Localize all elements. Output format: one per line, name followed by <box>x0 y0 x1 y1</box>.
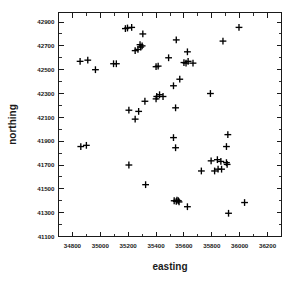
data-point <box>84 57 91 64</box>
y-tick-label: 41700 <box>37 161 55 168</box>
data-point <box>173 37 180 44</box>
data-point <box>77 143 84 150</box>
data-point <box>128 24 135 31</box>
x-axis: 3480035000352003540035600358003600036200 <box>64 13 277 249</box>
data-point <box>170 82 177 89</box>
data-point <box>125 162 132 169</box>
data-point <box>198 168 205 175</box>
plot-frame <box>59 13 282 237</box>
data-series <box>77 24 248 217</box>
data-point <box>142 181 149 188</box>
data-point <box>92 66 99 73</box>
data-point <box>224 131 231 138</box>
data-point <box>207 90 214 97</box>
data-point <box>142 98 149 105</box>
data-point <box>220 38 227 45</box>
x-tick-label: 36000 <box>231 242 249 249</box>
data-point <box>139 31 146 38</box>
y-tick-label: 41500 <box>37 185 55 192</box>
data-point <box>218 166 225 173</box>
data-point <box>208 157 215 164</box>
y-tick-label: 42500 <box>37 66 55 73</box>
y-tick-label: 42700 <box>37 42 55 49</box>
x-tick-label: 35800 <box>203 242 221 249</box>
data-point <box>83 142 90 149</box>
y-tick-label: 41900 <box>37 137 55 144</box>
x-tick-label: 35400 <box>147 242 165 249</box>
y-tick-label: 41100 <box>38 233 55 240</box>
data-point <box>135 108 142 115</box>
y-axis: 4110041300415004170041900421004230042500… <box>37 18 281 239</box>
data-point <box>184 203 191 210</box>
data-point <box>225 210 232 217</box>
y-tick-label: 41300 <box>37 209 55 216</box>
data-point <box>165 54 172 61</box>
data-point <box>236 24 243 31</box>
data-point <box>172 104 179 111</box>
data-point <box>241 199 248 206</box>
frame-rect <box>59 13 282 237</box>
scatter-plot-figure: 3480035000352003540035600358003600036200… <box>0 0 302 283</box>
data-point <box>172 144 179 151</box>
data-point <box>170 134 177 141</box>
data-point <box>184 48 191 55</box>
data-point <box>125 107 132 114</box>
x-tick-label: 36200 <box>259 242 277 249</box>
plot-canvas: 3480035000352003540035600358003600036200… <box>0 0 302 283</box>
x-tick-label: 35200 <box>120 242 138 249</box>
y-tick-label: 42300 <box>37 90 55 97</box>
y-tick-label: 42900 <box>37 18 55 25</box>
x-tick-label: 35600 <box>175 242 193 249</box>
y-tick-label: 42100 <box>37 114 55 121</box>
x-tick-label: 34800 <box>64 242 82 249</box>
data-point <box>77 58 84 65</box>
x-axis-title: easting <box>152 261 187 272</box>
x-tick-label: 35000 <box>92 242 110 249</box>
data-point <box>223 143 230 150</box>
data-point <box>132 116 139 123</box>
data-point <box>176 76 183 83</box>
y-axis-title: northing <box>7 104 18 145</box>
